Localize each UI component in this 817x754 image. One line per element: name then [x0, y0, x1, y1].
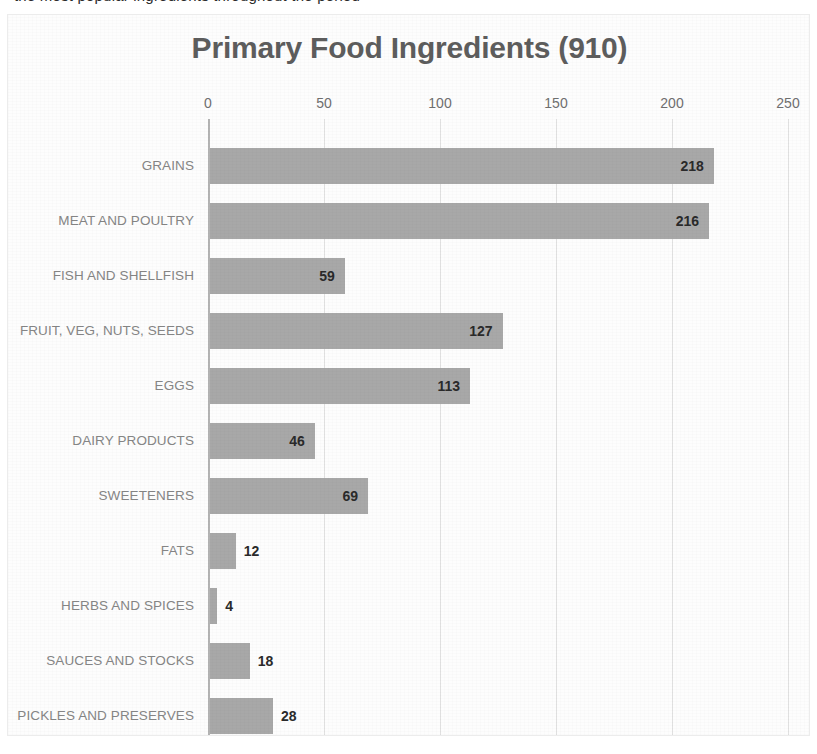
bar-pickles-and-preserves[interactable] — [208, 698, 273, 734]
bar-row[interactable]: 18 — [208, 643, 250, 679]
bar-value-label: 18 — [258, 643, 274, 679]
bar-eggs[interactable] — [208, 368, 470, 404]
y-axis-category-labels: GRAINSMEAT AND POULTRYFISH AND SHELLFISH… — [8, 119, 204, 736]
bar-value-label: 216 — [676, 203, 699, 239]
x-tick-label-100: 100 — [428, 95, 451, 111]
bar-fruit-veg-nuts-seeds[interactable] — [208, 313, 503, 349]
bar-sauces-and-stocks[interactable] — [208, 643, 250, 679]
bar-meat-and-poultry[interactable] — [208, 203, 709, 239]
bar-value-label: 69 — [343, 478, 359, 514]
bar-grains[interactable] — [208, 148, 714, 184]
x-tick-label-250: 250 — [776, 95, 799, 111]
category-label: GRAINS — [8, 148, 204, 184]
category-label: SWEETENERS — [8, 478, 204, 514]
bar-row[interactable]: 113 — [208, 368, 470, 404]
category-label: EGGS — [8, 368, 204, 404]
category-label: FISH AND SHELLFISH — [8, 258, 204, 294]
bar-row[interactable]: 218 — [208, 148, 714, 184]
x-tick-label-200: 200 — [660, 95, 683, 111]
chart-container: Primary Food Ingredients (910) 050100150… — [7, 14, 810, 736]
x-axis-tick-labels: 050100150200250 — [208, 95, 788, 115]
x-tick-label-50: 50 — [316, 95, 332, 111]
bar-value-label: 28 — [281, 698, 297, 734]
bar-row[interactable]: 127 — [208, 313, 503, 349]
bar-row[interactable]: 28 — [208, 698, 273, 734]
gridline-250 — [788, 119, 789, 736]
clipped-page-text: the most popular ingredients throughout … — [0, 0, 817, 14]
category-label: PICKLES AND PRESERVES — [8, 698, 204, 734]
bar-row[interactable]: 12 — [208, 533, 236, 569]
bar-series: 2182165912711346691241828 — [208, 119, 788, 736]
bar-value-label: 113 — [438, 368, 461, 404]
bar-value-label: 12 — [244, 533, 260, 569]
bar-row[interactable]: 59 — [208, 258, 345, 294]
bar-value-label: 46 — [289, 423, 305, 459]
plot-area: 2182165912711346691241828 — [208, 119, 788, 736]
bar-row[interactable]: 216 — [208, 203, 709, 239]
category-label: FRUIT, VEG, NUTS, SEEDS — [8, 313, 204, 349]
bar-value-label: 127 — [469, 313, 492, 349]
y-axis-line — [208, 119, 210, 736]
category-label: DAIRY PRODUCTS — [8, 423, 204, 459]
bar-row[interactable]: 69 — [208, 478, 368, 514]
bar-row[interactable]: 46 — [208, 423, 315, 459]
bar-value-label: 218 — [680, 148, 703, 184]
bar-value-label: 4 — [225, 588, 233, 624]
x-tick-label-150: 150 — [544, 95, 567, 111]
bar-value-label: 59 — [319, 258, 335, 294]
category-label: FATS — [8, 533, 204, 569]
bar-fats[interactable] — [208, 533, 236, 569]
category-label: MEAT AND POULTRY — [8, 203, 204, 239]
chart-title: Primary Food Ingredients (910) — [8, 31, 810, 65]
category-label: HERBS AND SPICES — [8, 588, 204, 624]
category-label: SAUCES AND STOCKS — [8, 643, 204, 679]
clipped-text-fragment: the most popular ingredients throughout … — [14, 0, 360, 4]
x-tick-label-0: 0 — [204, 95, 212, 111]
